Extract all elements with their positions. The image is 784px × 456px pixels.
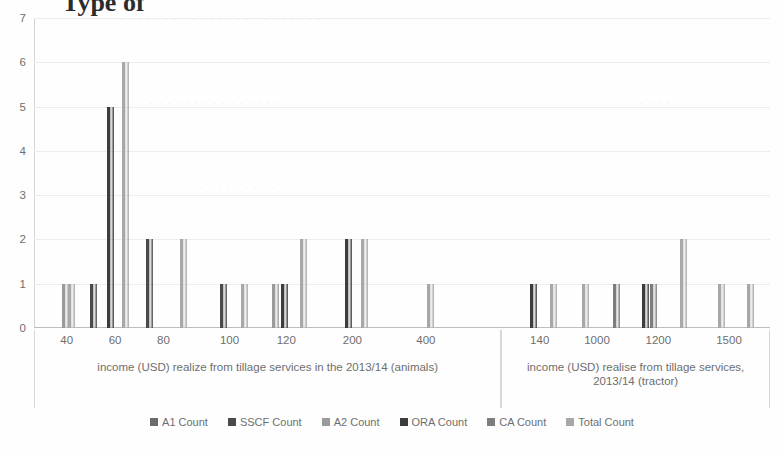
y-tick-label: 7 [20, 12, 26, 24]
plot-area: 01234567 [34, 18, 770, 328]
bar [281, 284, 288, 328]
x-tick-label: 120 [277, 334, 296, 346]
bar [582, 284, 589, 328]
y-tick-label: 5 [20, 101, 26, 113]
legend-swatch-icon [322, 418, 330, 426]
bar [272, 284, 279, 328]
bar [90, 284, 97, 328]
y-tick-label: 6 [20, 56, 26, 68]
page-title-fragment: Type of [62, 0, 145, 18]
x-tick-label: 1200 [646, 334, 672, 346]
bar [300, 239, 307, 328]
bar [241, 284, 248, 328]
x-tick-label: 1000 [584, 334, 610, 346]
legend-item[interactable]: Total Count [566, 416, 634, 428]
x-tick-label: 140 [530, 334, 549, 346]
bar [550, 284, 557, 328]
legend-label: CA Count [499, 416, 546, 428]
legend-item[interactable]: SSCF Count [228, 416, 302, 428]
x-tick-label: 60 [109, 334, 122, 346]
bar [642, 284, 649, 328]
legend-item[interactable]: ORA Count [400, 416, 468, 428]
group-title-animals: income (USD) realize from tillage servic… [35, 360, 500, 374]
y-tick-label: 0 [20, 322, 26, 334]
bar [146, 239, 153, 328]
bar [427, 284, 434, 328]
legend-item[interactable]: A1 Count [150, 416, 208, 428]
legend-item[interactable]: A2 Count [322, 416, 380, 428]
bar [718, 284, 725, 328]
legend-swatch-icon [150, 418, 158, 426]
legend-item[interactable]: CA Count [487, 416, 546, 428]
legend-label: SSCF Count [240, 416, 302, 428]
legend-swatch-icon [228, 418, 236, 426]
bar [747, 284, 754, 328]
category-axis-band: 406080100120200400 income (USD) realize … [34, 330, 770, 408]
legend-label: A2 Count [334, 416, 380, 428]
x-tick-label: 400 [416, 334, 435, 346]
y-tick-label: 1 [20, 278, 26, 290]
legend-swatch-icon [566, 418, 574, 426]
legend-label: A1 Count [162, 416, 208, 428]
y-tick-label: 4 [20, 145, 26, 157]
x-tick-label: 200 [343, 334, 362, 346]
y-tick-label: 3 [20, 189, 26, 201]
chart-legend: A1 CountSSCF CountA2 CountORA CountCA Co… [0, 416, 784, 428]
x-tick-label: 40 [60, 334, 73, 346]
chart-page: Type of . . . . . . . . . . . . . . . . … [0, 0, 784, 456]
bar [345, 239, 352, 328]
group-title-tractor: income (USD) realise from tillage servic… [502, 360, 769, 388]
bar [680, 239, 687, 328]
y-tick-label: 2 [20, 233, 26, 245]
bar [122, 62, 129, 328]
category-group-animals: 406080100120200400 income (USD) realize … [34, 330, 501, 408]
bar [68, 284, 75, 328]
bar [650, 284, 657, 328]
category-group-tractor: 140100012001500 income (USD) realise fro… [501, 330, 770, 408]
legend-label: Total Count [578, 416, 634, 428]
bar [613, 284, 620, 328]
x-tick-label: 1500 [716, 334, 742, 346]
bar [107, 107, 114, 328]
bars-panel-tractor [501, 18, 770, 328]
bar [180, 239, 187, 328]
legend-swatch-icon [487, 418, 495, 426]
bar [530, 284, 537, 328]
legend-label: ORA Count [412, 416, 468, 428]
bars-panel-animals [34, 18, 501, 328]
bar [220, 284, 227, 328]
legend-swatch-icon [400, 418, 408, 426]
x-tick-label: 80 [157, 334, 170, 346]
x-tick-label: 100 [220, 334, 239, 346]
bar [361, 239, 368, 328]
